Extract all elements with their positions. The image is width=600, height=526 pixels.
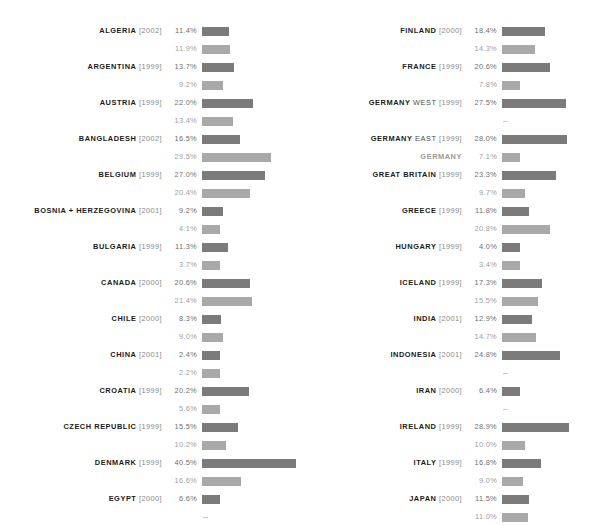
bar-cell [502,94,600,112]
country-year: [2001] [139,206,162,215]
primary-bar [202,135,240,144]
bar-cell [502,454,600,472]
primary-value: 11.4% [168,22,202,40]
country-year: [2001] [439,350,462,359]
country-label: IRAN [2000] [300,382,468,400]
primary-bar [502,63,550,72]
country-block: BULGARIA [1999]11.3%3.7% [0,238,300,274]
country-label: CZECH REPUBLIC [1999] [0,418,168,436]
bar-cell [202,508,300,526]
country-name: FRANCE [402,62,436,71]
primary-bar [502,207,529,216]
country-block: DENMARK [1999]40.5%16.6% [0,454,300,490]
secondary-value: 14.7% [468,328,502,346]
chart-row: INDONESIA [2001]24.8% [300,346,600,364]
primary-bar [202,243,228,252]
country-name: BELGIUM [99,170,137,179]
bar-cell [202,148,300,166]
country-year: [2000] [439,386,462,395]
chart-row: DENMARK [1999]40.5% [0,454,300,472]
chart-row: 2.2% [0,364,300,382]
country-name: ICELAND [400,278,437,287]
country-name: CZECH REPUBLIC [63,422,136,431]
country-name: EGYPT [109,494,137,503]
primary-value: 23.3% [468,166,502,184]
primary-value: 2.4% [168,346,202,364]
country-label: IRELAND [1999] [300,418,468,436]
bar-cell [502,400,600,418]
secondary-value: 2.2% [168,364,202,382]
chart-row: BANGLADESH [2002]16.5% [0,130,300,148]
country-name: BANGLADESH [79,134,137,143]
country-block: GREAT BRITAIN [1999]23.3%9.7% [300,166,600,202]
country-name: CANADA [101,278,136,287]
country-label: BELGIUM [1999] [0,166,168,184]
country-label: GERMANY WEST [1999] [300,94,468,112]
chart-row: CHINA [2001]2.4% [0,346,300,364]
missing-data-dash [503,121,508,122]
secondary-value: 21.4% [168,292,202,310]
secondary-bar [202,117,233,126]
primary-value: 8.3% [168,310,202,328]
bar-cell [202,76,300,94]
bar-cell [202,490,300,508]
bar-cell [502,220,600,238]
primary-value: 20.2% [168,382,202,400]
bar-cell [502,346,600,364]
country-year: [1999] [139,386,162,395]
primary-bar [502,459,541,468]
primary-bar [202,459,296,468]
primary-value: 17.3% [468,274,502,292]
primary-bar [202,99,253,108]
country-label: CANADA [2000] [0,274,168,292]
country-name: CHINA [110,350,136,359]
primary-value: 11.8% [468,202,502,220]
bar-cell [202,220,300,238]
primary-value: 40.5% [168,454,202,472]
bar-cell [502,310,600,328]
chart-row: ARGENTINA [1999]13.7% [0,58,300,76]
primary-bar [202,387,249,396]
primary-value: 28.0% [468,130,502,148]
primary-bar [502,351,560,360]
country-label: ALGERIA [2002] [0,22,168,40]
chart-row: 11.9% [0,40,300,58]
chart-row: 5.6% [0,400,300,418]
primary-bar [202,495,220,504]
chart-row: 13.4% [0,112,300,130]
country-year: [2002] [139,134,162,143]
primary-bar [502,423,569,432]
bar-cell [202,94,300,112]
country-block: GERMANY WEST [1999]27.5% [300,94,600,130]
secondary-bar [202,477,241,486]
country-name: JAPAN [409,494,436,503]
chart-row: 16.6% [0,472,300,490]
country-name: ITALY [414,458,437,467]
country-block: CHINA [2001]2.4%2.2% [0,346,300,382]
primary-value: 6.4% [468,382,502,400]
secondary-bar [202,297,252,306]
chart-row: 11.0% [300,508,600,526]
chart-row: 4.1% [0,220,300,238]
country-name: HUNGARY [395,242,436,251]
country-label: ARGENTINA [1999] [0,58,168,76]
country-block: ICELAND [1999]17.3%15.5% [300,274,600,310]
country-block: BANGLADESH [2002]16.5%29.5% [0,130,300,166]
bar-cell [202,400,300,418]
bar-cell [202,202,300,220]
secondary-bar [502,477,523,486]
chart-row: GREAT BRITAIN [1999]23.3% [300,166,600,184]
missing-data-dash [503,409,508,410]
chart-row: ICELAND [1999]17.3% [300,274,600,292]
primary-value: 18.4% [468,22,502,40]
country-label: BULGARIA [1999] [0,238,168,256]
secondary-value: 20.4% [168,184,202,202]
country-name: GREAT BRITAIN [372,170,436,179]
chart-row: JAPAN [2000]11.5% [300,490,600,508]
country-label: FINLAND [2000] [300,22,468,40]
chart-row: 7.8% [300,76,600,94]
chart-row: HUNGARY [1999]4.0% [300,238,600,256]
chart-row: BOSNIA + HERZEGOVINA [2001]9.2% [0,202,300,220]
secondary-value: 3.7% [168,256,202,274]
chart-row: BELGIUM [1999]27.0% [0,166,300,184]
